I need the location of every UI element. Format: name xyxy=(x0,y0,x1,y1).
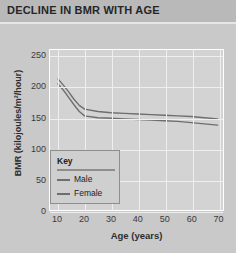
y-tick-label: 250 xyxy=(2,50,46,60)
legend-divider xyxy=(57,169,115,171)
legend-swatch-female xyxy=(57,193,70,195)
x-tick-label: 10 xyxy=(45,214,69,224)
chart-header-bar: DECLINE IN BMR WITH AGE xyxy=(0,0,236,22)
x-tick-label: 50 xyxy=(153,214,177,224)
gridline-vertical xyxy=(166,50,167,210)
y-tick-label: 100 xyxy=(2,144,46,154)
gridline-horizontal xyxy=(50,87,223,88)
x-tick-label: 40 xyxy=(126,214,150,224)
x-tick-label: 30 xyxy=(99,214,123,224)
gridline-vertical xyxy=(139,50,140,210)
x-tick-label: 20 xyxy=(72,214,96,224)
figure-body: BMR (kilojoules/m²/hour) 050100150200250… xyxy=(0,24,236,253)
gridline-horizontal xyxy=(50,212,223,213)
chart-title: DECLINE IN BMR WITH AGE xyxy=(7,4,160,16)
gridline-vertical xyxy=(220,50,221,210)
chart-figure-panel: DECLINE IN BMR WITH AGE BMR (kilojoules/… xyxy=(0,0,236,253)
legend-swatch-male xyxy=(57,179,70,181)
y-tick-label: 150 xyxy=(2,113,46,123)
legend-label-male: Male xyxy=(74,174,92,184)
legend-box: Key Male Female xyxy=(50,150,120,204)
gridline-horizontal xyxy=(50,56,223,57)
x-axis-label: Age (years) xyxy=(49,230,224,241)
y-tick-label: 200 xyxy=(2,81,46,91)
x-tick-label: 60 xyxy=(180,214,204,224)
legend-title: Key xyxy=(57,156,73,166)
gridline-vertical xyxy=(193,50,194,210)
x-tick-label: 70 xyxy=(207,214,231,224)
y-tick-label: 50 xyxy=(2,175,46,185)
x-axis-ticks: 10203040506070 xyxy=(0,214,236,228)
legend-label-female: Female xyxy=(74,188,102,198)
gridline-horizontal xyxy=(50,119,223,120)
